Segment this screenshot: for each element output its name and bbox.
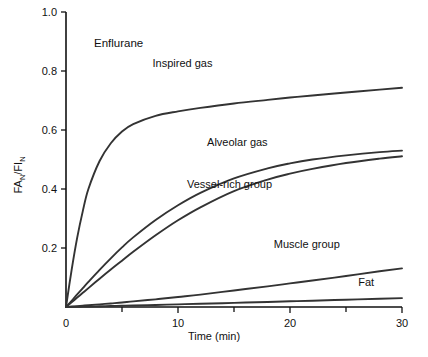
curve-muscle-group [66,268,402,307]
y-tick-label-1.0: 1.0 [42,6,57,18]
chart-title: Enflurane [94,37,143,49]
chart-container: 0.20.40.60.81.0 0102030 Inspired gasAlve… [0,0,428,357]
y-axis-tick-labels: 0.20.40.60.81.0 [42,6,57,254]
curve-inspired-gas [66,88,402,307]
x-tick-label-30: 30 [396,317,408,329]
x-tick-label-20: 20 [284,317,296,329]
y-axis-label-fi-subscript: N [18,156,27,161]
curve-label-vessel-rich-group: Vessel-rich group [187,178,272,190]
x-tick-label-0: 0 [63,317,69,329]
curve-label-alveolar-gas: Alveolar gas [207,136,268,148]
x-axis-label: Time (min) [188,330,240,342]
data-curves [66,88,402,307]
curve-label-fat: Fat [358,276,374,288]
enflurane-uptake-chart: 0.20.40.60.81.0 0102030 Inspired gasAlve… [0,0,428,357]
y-axis-label-text: FAN/FIN [12,156,27,193]
x-axis-tick-labels: 0102030 [63,317,408,329]
y-tick-label-0.2: 0.2 [42,242,57,254]
curve-label-muscle-group: Muscle group [274,238,340,250]
y-tick-label-0.4: 0.4 [42,183,57,195]
y-tick-label-0.6: 0.6 [42,124,57,136]
y-axis-label: FAN/FIN [12,156,27,193]
x-tick-label-10: 10 [172,317,184,329]
x-axis-ticks [122,307,402,313]
curve-annotations: Inspired gasAlveolar gasVessel-rich grou… [153,57,375,288]
curve-alveolar-gas [66,151,402,307]
curve-label-inspired-gas: Inspired gas [153,57,213,69]
y-axis-label-fa: FA [12,179,24,193]
axes [66,12,402,307]
y-tick-label-0.8: 0.8 [42,65,57,77]
y-axis-label-fi: FI [12,162,24,172]
